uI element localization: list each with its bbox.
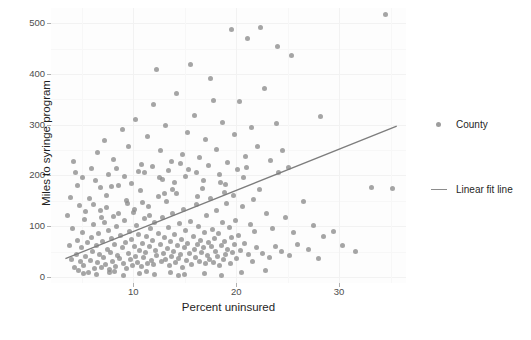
legend: County Linear fit line	[428, 108, 528, 208]
x-tick-mark	[133, 283, 134, 287]
linear-fit-line	[51, 8, 406, 283]
legend-label-linear-fit-line: Linear fit line	[456, 184, 513, 195]
fit-line-icon	[431, 189, 447, 190]
county-dot-icon	[436, 122, 441, 127]
x-axis-title: Percent uninsured	[51, 301, 406, 313]
x-tick-label: 10	[113, 287, 153, 297]
legend-key-line	[428, 181, 450, 197]
scatter-plot-figure: 0100200300400500 Miles to syringe progra…	[0, 0, 531, 340]
x-tick-label: 30	[319, 287, 359, 297]
x-tick-mark	[236, 283, 237, 287]
legend-item-linear-fit-line: Linear fit line	[428, 181, 528, 197]
y-axis-title: Miles to syringe program	[40, 6, 52, 281]
x-tick-mark	[339, 283, 340, 287]
legend-label-county: County	[456, 119, 488, 130]
legend-item-county: County	[428, 116, 528, 132]
x-tick-label: 20	[216, 287, 256, 297]
x-axis-tick-labels: 102030	[0, 287, 531, 301]
plot-panel	[51, 8, 406, 283]
legend-key-point	[428, 116, 450, 132]
